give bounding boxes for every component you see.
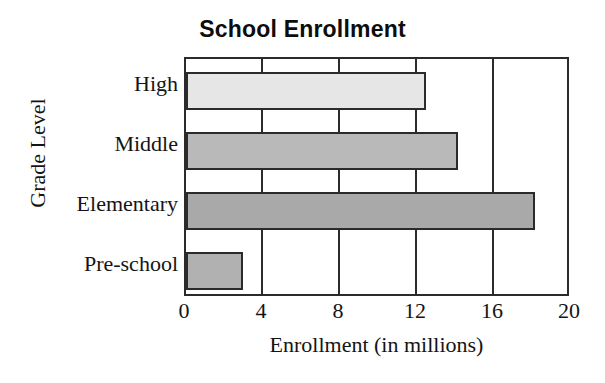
chart-title: School Enrollment (0, 16, 605, 43)
x-axis-title: Enrollment (in millions) (184, 332, 569, 358)
y-tick-label-pre-school: Pre-school (8, 253, 178, 275)
x-tick-label-16: 16 (481, 300, 503, 322)
x-tick-label-20: 20 (558, 300, 580, 322)
x-tick-label-12: 12 (404, 300, 426, 322)
bar-high (186, 72, 426, 110)
y-tick-label-elementary: Elementary (8, 193, 178, 215)
y-tick-label-middle: Middle (8, 133, 178, 155)
plot-area (184, 57, 569, 296)
bar-chart: School Enrollment Grade Level High Middl… (0, 0, 605, 383)
y-axis-tick-labels: High Middle Elementary Pre-school (8, 57, 178, 296)
x-axis-tick-labels: 0 4 8 12 16 20 (184, 300, 569, 328)
bar-middle (186, 132, 458, 170)
x-tick-label-8: 8 (333, 300, 344, 322)
x-tick-label-4: 4 (256, 300, 267, 322)
gridline-16 (492, 59, 494, 294)
y-tick-label-high: High (8, 73, 178, 95)
bar-pre-school (186, 252, 243, 290)
bar-elementary (186, 192, 535, 230)
x-tick-label-0: 0 (179, 300, 190, 322)
